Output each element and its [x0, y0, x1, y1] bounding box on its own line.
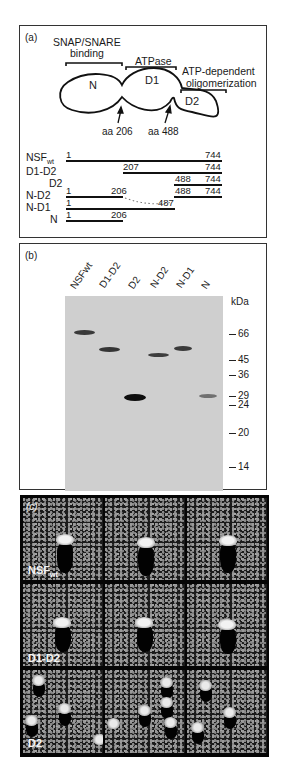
construct-bars	[66, 161, 222, 221]
band-d1d2	[99, 347, 120, 352]
residue-label: 488	[175, 174, 191, 184]
lane-label-nd2: N-D2	[148, 265, 170, 290]
residue-label: 1	[66, 210, 71, 220]
residue-label: 488	[175, 186, 191, 196]
row-label-d2: D2	[28, 737, 42, 749]
lane-label-d1d2: D1-D2	[97, 260, 123, 290]
marker-36: 36	[229, 369, 249, 380]
band-nd1	[174, 346, 192, 351]
domain-d2-label: D2	[185, 96, 199, 107]
band-nd2	[148, 353, 169, 357]
marker-66: 66	[229, 328, 249, 339]
residue-label: 206	[111, 210, 127, 220]
residue-label: 206	[111, 186, 127, 196]
panel-b-sds-gel: (b) NSFwt D1-D2 D2 N-D2 N-D1 N kDa 66 45…	[19, 243, 267, 490]
micrograph-tile	[187, 584, 267, 666]
micrograph-tile	[187, 498, 267, 580]
micrograph-tile	[105, 498, 185, 580]
residue-label: 1	[66, 150, 71, 160]
residue-label: 1	[66, 186, 71, 196]
construct-name-nd1: N-D1	[26, 202, 51, 213]
residue-label: 207	[123, 162, 139, 172]
band-d2	[124, 394, 146, 401]
lane-label-nd1: N-D1	[174, 265, 196, 290]
construct-name-n: N	[50, 214, 58, 225]
residue-label: 744	[205, 174, 221, 184]
panel-b-label: (b)	[25, 250, 37, 261]
kda-unit-label: kDa	[231, 297, 249, 307]
micrograph-tile	[187, 670, 267, 753]
residue-label: 487	[158, 198, 174, 208]
lane-label-nsfwt: NSFwt	[68, 260, 94, 291]
nsf-outline	[60, 68, 218, 117]
marker-14: 14	[229, 461, 249, 472]
band-nsfwt	[74, 330, 95, 335]
residue-label: 744	[205, 186, 221, 196]
panel-a-domain-diagram: (a) SNAP/SNARE binding ATPase ATP-depend…	[19, 25, 267, 238]
domain-d1-label: D1	[145, 75, 159, 86]
row-label-d1d2: D1-D2	[28, 652, 60, 664]
marker-24: 24	[229, 399, 249, 410]
construct-name-nd2: N-D2	[26, 190, 51, 201]
micrograph-tile	[105, 670, 185, 753]
gel-image	[65, 296, 223, 491]
residue-label: 1	[66, 198, 71, 208]
panel-c-label: (c)	[26, 501, 38, 512]
domain-shape-svg	[20, 26, 268, 239]
band-n	[199, 394, 217, 398]
row-label-nsfwt: NSFwt	[28, 564, 58, 578]
lane-label-n: N	[199, 279, 212, 291]
panel-c-em-micrographs: (c) NSFwt D1-D2 D2	[20, 495, 269, 757]
construct-name-d1d2: D1-D2	[26, 166, 56, 177]
construct-name-nsfwt: NSFwt	[26, 152, 54, 165]
residue-label: 744	[205, 150, 221, 160]
arrow-label-aa488: aa 488	[148, 127, 179, 137]
construct-name-d2: D2	[49, 178, 62, 189]
marker-45: 45	[229, 354, 249, 365]
micrograph-tile	[105, 584, 185, 666]
lane-label-d2: D2	[126, 274, 142, 291]
arrow-label-aa206: aa 206	[102, 127, 133, 137]
marker-20: 20	[229, 427, 249, 438]
residue-label: 744	[205, 162, 221, 172]
domain-n-label: N	[89, 80, 97, 91]
